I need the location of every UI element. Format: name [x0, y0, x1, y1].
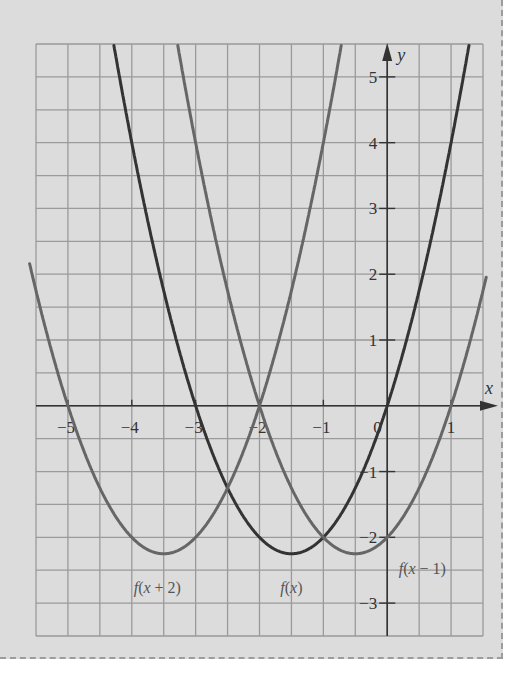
x-axis-label: x	[484, 378, 493, 398]
y-tick-label: 2	[369, 265, 378, 284]
grid	[36, 44, 483, 636]
curve-label: f(x − 1)	[399, 560, 446, 578]
labels: f(x)f(x + 2)f(x − 1)	[134, 560, 446, 598]
y-tick-label: −2	[359, 528, 377, 547]
y-axis-arrow-icon	[382, 43, 392, 61]
y-tick-label: 3	[369, 199, 378, 218]
curve-label: f(x)	[280, 579, 302, 597]
curve-f-x-2-	[30, 45, 342, 553]
y-axis-label: y	[395, 45, 405, 65]
parabola-chart: xy−5−4−3−2−10154321−1−2−3 f(x)f(x + 2)f(…	[0, 0, 515, 680]
y-tick-label: 5	[369, 68, 378, 87]
curves	[30, 45, 487, 553]
y-tick-label: 4	[369, 134, 378, 153]
x-axis-arrow-icon	[480, 401, 498, 411]
y-tick-label: 1	[369, 331, 378, 350]
x-tick-label: 1	[447, 418, 456, 437]
x-tick-label: −1	[312, 418, 330, 437]
x-tick-label: −4	[121, 418, 140, 437]
curve-label: f(x + 2)	[134, 579, 181, 597]
y-tick-label: −3	[359, 594, 377, 613]
